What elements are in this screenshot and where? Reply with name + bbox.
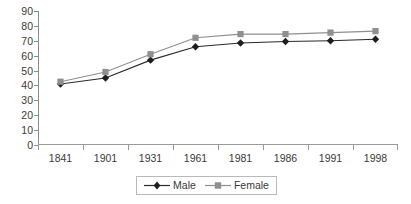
series-layer (38, 11, 398, 145)
x-axis-tick (263, 145, 264, 150)
y-axis-tick-label: 50 (21, 65, 33, 76)
data-point-diamond (237, 39, 244, 46)
data-point-square (327, 29, 333, 35)
x-axis-tick (308, 145, 309, 150)
legend-item-female: Female (205, 180, 269, 191)
data-point-square (282, 31, 288, 37)
x-axis-tick-label: 1841 (49, 152, 72, 165)
x-axis-tick-label: 1986 (274, 152, 297, 165)
data-point-diamond (372, 36, 379, 43)
y-axis-tick-label: 60 (21, 50, 33, 61)
x-axis-tick-label: 1998 (364, 152, 387, 165)
x-axis-ticks (38, 145, 398, 151)
y-axis-tick-label: 0 (27, 140, 33, 151)
legend-label-female: Female (234, 180, 269, 191)
data-point-diamond (102, 74, 109, 81)
x-axis-labels: 18411901193119611981198619911998 (38, 152, 398, 168)
x-axis-tick (353, 145, 354, 150)
x-axis-tick (218, 145, 219, 150)
data-point-diamond (282, 38, 289, 45)
x-axis-tick (173, 145, 174, 150)
x-axis-tick (83, 145, 84, 150)
y-axis-tick-label: 90 (21, 6, 33, 17)
y-axis-tick-label: 70 (21, 36, 33, 47)
x-axis-tick-label: 1991 (319, 152, 342, 165)
x-axis-tick (397, 145, 398, 150)
y-axis-tick-label: 40 (21, 80, 33, 91)
data-point-square (192, 35, 198, 41)
y-axis-tick-label: 30 (21, 95, 33, 106)
y-axis-tick-label: 20 (21, 110, 33, 121)
x-axis-tick-label: 1961 (184, 152, 207, 165)
series-male (57, 36, 379, 88)
data-point-square (372, 28, 378, 34)
x-axis-tick (128, 145, 129, 150)
legend-marker-square-icon (205, 181, 231, 190)
data-point-square (57, 79, 63, 85)
x-axis-tick (38, 145, 39, 150)
data-point-diamond (192, 43, 199, 50)
x-axis-tick-label: 1931 (139, 152, 162, 165)
x-axis-tick-label: 1981 (229, 152, 252, 165)
data-point-square (237, 31, 243, 37)
y-axis-tick-label: 10 (21, 125, 33, 136)
plot-area: 0102030405060708090 (38, 11, 398, 145)
data-point-square (147, 51, 153, 57)
data-point-diamond (147, 56, 154, 63)
legend-label-male: Male (173, 180, 196, 191)
data-point-square (102, 69, 108, 75)
y-axis-tick-label: 80 (21, 21, 33, 32)
data-point-diamond (327, 37, 334, 44)
line-chart: 0102030405060708090 18411901193119611981… (0, 0, 411, 204)
x-axis-tick-label: 1901 (94, 152, 117, 165)
legend-item-male: Male (144, 180, 196, 191)
chart-legend: Male Female (136, 176, 277, 195)
legend-marker-diamond-icon (144, 181, 170, 190)
